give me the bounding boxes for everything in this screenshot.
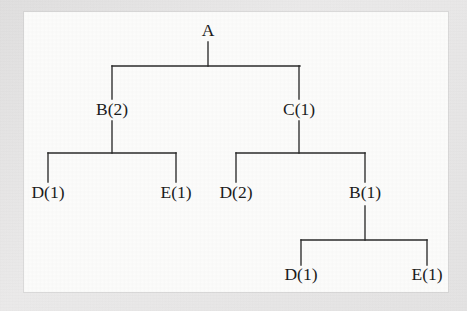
- tree-node-n-e1-a: E(1): [160, 182, 191, 202]
- tree-node-root: A: [202, 20, 215, 40]
- tree-node-n-d1-b: D(1): [284, 264, 317, 284]
- tree-diagram: AB(2)C(1)D(1)E(1)D(2)B(1)D(1)E(1): [0, 0, 467, 311]
- tree-node-n-b1: B(1): [349, 182, 381, 202]
- tree-node-n-e1-b: E(1): [411, 264, 442, 284]
- diagram-page: AB(2)C(1)D(1)E(1)D(2)B(1)D(1)E(1): [0, 0, 467, 311]
- tree-node-n-d2: D(2): [219, 182, 252, 202]
- tree-node-n-c1: C(1): [283, 99, 315, 119]
- tree-node-n-b2: B(2): [96, 99, 128, 119]
- tree-node-n-d1-a: D(1): [31, 182, 64, 202]
- tree-nodes: AB(2)C(1)D(1)E(1)D(2)B(1)D(1)E(1): [31, 20, 442, 284]
- tree-edges: [48, 42, 427, 265]
